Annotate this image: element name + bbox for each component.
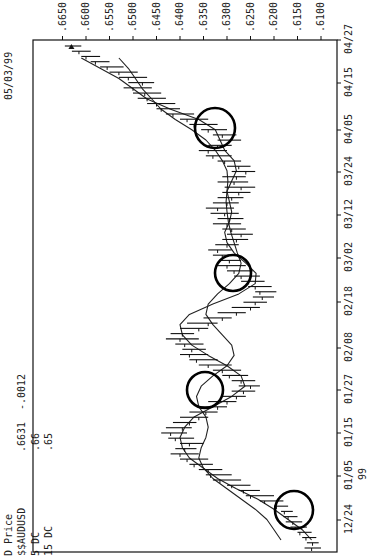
price-tick-label: .6350 <box>198 2 209 32</box>
price-tick-label: .6100 <box>315 2 326 32</box>
date-tick-label: 01/05 <box>343 460 354 490</box>
header-last: .6631 <box>16 422 27 452</box>
header-symbol: $$AUDUSD <box>16 508 27 556</box>
price-tick-label: .6650 <box>57 2 68 32</box>
price-chart: 05/03/99 D Price $$AUDUSD .6631 -.0012 5… <box>0 0 373 559</box>
price-tick-label: .6400 <box>174 2 185 32</box>
price-tick-label: .6600 <box>80 2 91 32</box>
header-date: 05/03/99 <box>3 52 14 100</box>
price-tick-label: .6200 <box>268 2 279 32</box>
date-tick-label: 04/15 <box>343 67 354 97</box>
price-tick-label: .6550 <box>104 2 115 32</box>
plot-frame <box>33 40 337 552</box>
price-tick-label: .6300 <box>221 2 232 32</box>
crossover-circle <box>187 372 223 408</box>
date-tick-label: 02/18 <box>343 286 354 316</box>
date-tick-label: 03/24 <box>343 156 354 186</box>
date-tick-label: 04/27 <box>343 24 354 54</box>
ma5-line <box>81 58 311 540</box>
price-tick-label: .6150 <box>292 2 303 32</box>
date-tick-label: 03/02 <box>343 242 354 272</box>
indicator-15dc-value: .65 <box>43 433 54 451</box>
date-tick-label: 02/08 <box>343 332 354 362</box>
header-study: D Price <box>3 514 14 556</box>
header-change: -.0012 <box>16 374 27 410</box>
year-label: 99 <box>357 468 368 480</box>
date-tick-label: 03/12 <box>343 199 354 229</box>
date-axis: 12/2401/0501/1501/2702/0802/1803/0203/12… <box>337 24 354 534</box>
date-tick-label: 12/24 <box>343 504 354 534</box>
price-tick-label: .6500 <box>127 2 138 32</box>
date-tick-label: 01/27 <box>343 374 354 404</box>
price-tick-label: .6450 <box>151 2 162 32</box>
date-tick-label: 01/15 <box>343 417 354 447</box>
date-tick-label: 04/05 <box>343 114 354 144</box>
ohlc-bars <box>65 46 321 551</box>
ma15-line <box>119 58 281 540</box>
price-axis: .6650.6600.6550.6500.6450.6400.6350.6300… <box>57 2 327 40</box>
crossover-circle <box>195 108 235 148</box>
indicator-5dc-value: .66 <box>30 433 41 451</box>
price-tick-label: .6250 <box>245 2 256 32</box>
chart-header: 05/03/99 D Price $$AUDUSD .6631 -.0012 5… <box>3 52 368 556</box>
